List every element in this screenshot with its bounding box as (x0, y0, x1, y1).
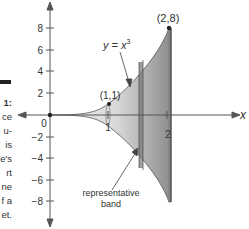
caption-line: et. (1, 209, 12, 220)
caption-bar (0, 80, 11, 84)
solid-of-revolution-diagram: 8 6 4 2 −2 −4 −6 −8 0 1 2 x (1,1) (2,8) … (0, 0, 249, 229)
origin-label: 0 (41, 118, 47, 129)
point-2-8-label: (2,8) (157, 12, 180, 24)
band-label-line1: representative (82, 188, 139, 198)
y-tick-2: 2 (37, 88, 43, 99)
y-tick-8: 8 (37, 23, 43, 34)
x-axis-label: x (239, 108, 247, 122)
figure-caption-fragment: 1: ce u- is e's rt ne f a et. (0, 80, 13, 220)
x-axis-right-arrow-icon (232, 112, 240, 118)
y-tick-neg2: −2 (32, 132, 44, 143)
caption-line: rt (6, 167, 12, 178)
caption-line: u- (4, 125, 12, 136)
y-tick-4: 4 (37, 66, 43, 77)
band-label-line2: band (101, 199, 121, 209)
y-tick-neg4: −4 (32, 153, 44, 164)
y-axis-up-arrow-icon (47, 2, 53, 10)
y-axis-down-arrow-icon (47, 219, 53, 227)
y-tick-6: 6 (37, 45, 43, 56)
y-tick-neg8: −8 (32, 196, 44, 207)
caption-line: ne (1, 181, 12, 192)
curve-label: y = x3 (102, 38, 131, 51)
x-tick-1: 1 (105, 122, 111, 133)
caption-label: 1: (4, 97, 12, 108)
caption-line: e's (0, 153, 12, 164)
caption-line: is (5, 139, 12, 150)
point-1-1 (107, 102, 111, 106)
y-tick-neg6: −6 (32, 175, 44, 186)
point-2-8 (167, 26, 171, 30)
origin-point (48, 113, 52, 117)
caption-line: f a (1, 195, 12, 206)
point-1-1-label: (1,1) (100, 90, 121, 101)
x-axis-left-arrow-icon (18, 112, 26, 118)
x-tick-2: 2 (165, 129, 171, 140)
caption-line: ce (2, 111, 12, 122)
